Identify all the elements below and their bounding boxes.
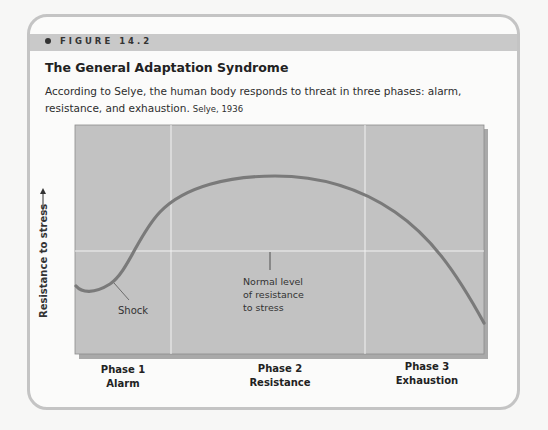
normal-label-line1: Normal level bbox=[243, 276, 303, 287]
normal-label-line3: to stress bbox=[243, 302, 284, 313]
phase-2-label: Phase 2 Resistance bbox=[240, 362, 320, 390]
normal-label-line2: of resistance bbox=[243, 289, 304, 300]
phase-3-label: Phase 3 Exhaustion bbox=[387, 360, 467, 388]
phase-1-number: Phase 1 bbox=[98, 363, 148, 377]
y-axis-text: Resistance to stress bbox=[38, 204, 49, 318]
shock-label: Shock bbox=[118, 305, 148, 316]
phase-3-number: Phase 3 bbox=[387, 360, 467, 374]
y-axis-label: Resistance to stress bbox=[38, 188, 49, 318]
phase-2-name: Resistance bbox=[240, 376, 320, 390]
phase-1-label: Phase 1 Alarm bbox=[98, 363, 148, 391]
plot-area bbox=[75, 125, 484, 354]
arrow-up-icon bbox=[40, 188, 46, 194]
phase-3-name: Exhaustion bbox=[387, 374, 467, 388]
phase-1-name: Alarm bbox=[98, 377, 148, 391]
phase-2-number: Phase 2 bbox=[240, 362, 320, 376]
